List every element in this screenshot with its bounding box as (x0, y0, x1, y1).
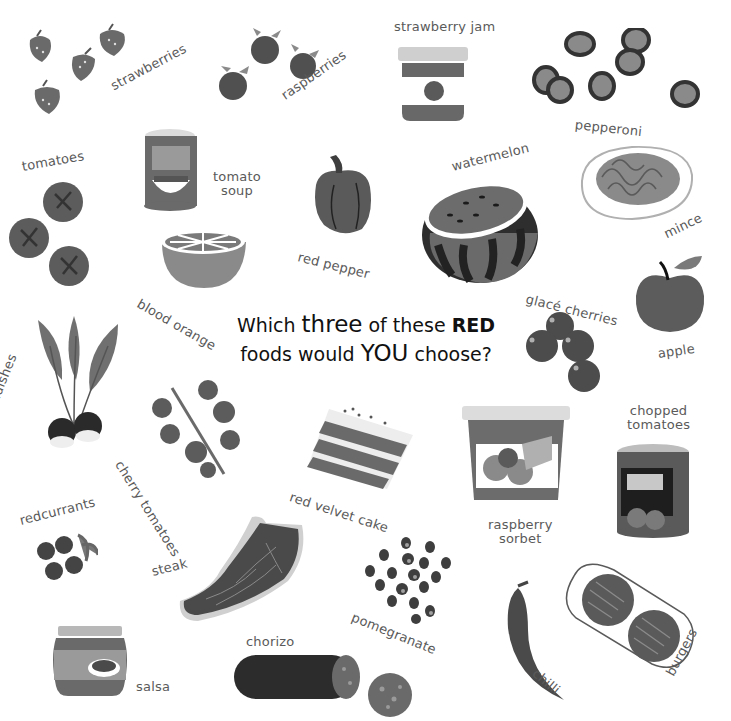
label-strawberry-jam: strawberry jam (394, 20, 495, 34)
cherry-tomatoes-illustration[interactable] (150, 378, 246, 478)
label-salsa: salsa (136, 680, 170, 694)
strawberry-jam-jar-illustration[interactable] (394, 45, 474, 125)
watermelon-illustration[interactable] (420, 175, 540, 285)
chorizo-illustration[interactable] (234, 655, 414, 717)
label-red-pepper: red pepper (296, 250, 371, 282)
label-tomatoes: tomatoes (21, 149, 86, 174)
question-heading: Which three of these RED foods would YOU… (236, 310, 496, 368)
glace-cherries-illustration[interactable] (522, 312, 606, 394)
label-blood-orange: blood orange (134, 297, 218, 354)
pepperoni-illustration[interactable] (530, 28, 720, 118)
red-velvet-cake-illustration[interactable] (305, 405, 415, 491)
emphasis-red: RED (452, 314, 495, 336)
red-pepper-illustration[interactable] (308, 155, 378, 235)
redcurrants-illustration[interactable] (36, 531, 98, 585)
steak-illustration[interactable] (176, 513, 310, 623)
label-apple: apple (657, 342, 696, 361)
label-tomato-soup: tomato soup (213, 170, 261, 199)
label-redcurrants: redcurrants (18, 495, 97, 528)
tomato-soup-can-illustration[interactable] (142, 128, 202, 212)
raspberry-sorbet-tub-illustration[interactable] (462, 406, 574, 502)
tomatoes-illustration[interactable] (5, 178, 95, 288)
mince-illustration[interactable] (578, 143, 696, 223)
emphasis-three: three (302, 311, 363, 337)
chopped-tomatoes-can-illustration[interactable] (615, 444, 691, 540)
label-chorizo: chorizo (246, 635, 294, 649)
salsa-jar-illustration[interactable] (52, 626, 128, 698)
label-radishes: radishes (0, 352, 20, 410)
apple-illustration[interactable] (634, 254, 708, 334)
emphasis-you: YOU (361, 340, 409, 366)
label-chopped-tomatoes: chopped tomatoes (627, 404, 690, 433)
blood-orange-illustration[interactable] (160, 230, 246, 290)
label-pepperoni: pepperoni (574, 118, 643, 139)
label-watermelon: watermelon (450, 141, 530, 174)
pomegranate-seeds-illustration[interactable] (364, 535, 454, 625)
radishes-illustration[interactable] (28, 316, 128, 456)
label-raspberry-sorbet: raspberry sorbet (488, 518, 553, 547)
